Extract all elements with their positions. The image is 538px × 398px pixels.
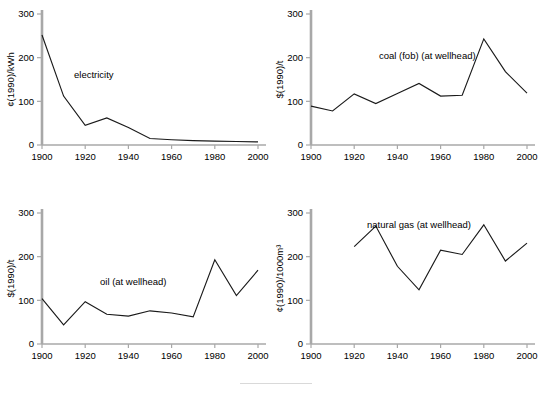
x-tick-label: 1900 bbox=[31, 350, 52, 361]
y-tick-label: 0 bbox=[298, 338, 303, 349]
x-tick-label: 1900 bbox=[300, 151, 321, 162]
chart-svg-electricity: 0100200300190019201940196019802000¢(1990… bbox=[0, 0, 269, 199]
chart-panel-oil: 0100200300190019201940196019802000$(1990… bbox=[0, 199, 269, 398]
x-tick-label: 1940 bbox=[387, 151, 408, 162]
x-tick-label: 1940 bbox=[118, 350, 139, 361]
y-tick-label: 300 bbox=[18, 8, 34, 19]
y-tick-label: 0 bbox=[29, 139, 34, 150]
chart-svg-natural-gas: 0100200300190019201940196019802000¢(1990… bbox=[269, 199, 538, 398]
chart-svg-oil: 0100200300190019201940196019802000$(1990… bbox=[0, 199, 269, 398]
y-tick-label: 200 bbox=[287, 52, 303, 63]
y-tick-label: 100 bbox=[18, 295, 34, 306]
x-tick-label: 2000 bbox=[247, 350, 268, 361]
x-tick-label: 1980 bbox=[204, 350, 225, 361]
chart-panel-coal: 0100200300190019201940196019802000$(1990… bbox=[269, 0, 538, 199]
y-tick-label: 0 bbox=[298, 139, 303, 150]
y-axis-title: $(1990)/t bbox=[274, 60, 285, 98]
y-tick-label: 100 bbox=[287, 295, 303, 306]
data-series-line bbox=[354, 225, 527, 290]
energy-price-chart-figure: 0100200300190019201940196019802000¢(1990… bbox=[0, 0, 538, 398]
x-tick-label: 2000 bbox=[516, 151, 537, 162]
x-tick-label: 1960 bbox=[430, 151, 451, 162]
y-axis-title: ¢(1990)/1000m³ bbox=[274, 245, 285, 313]
series-label: natural gas (at wellhead) bbox=[367, 219, 471, 230]
series-label: oil (at wellhead) bbox=[100, 276, 167, 287]
y-axis-title: $(1990)/t bbox=[5, 259, 16, 297]
y-tick-label: 100 bbox=[287, 96, 303, 107]
chart-svg-coal: 0100200300190019201940196019802000$(1990… bbox=[269, 0, 538, 199]
x-tick-label: 1960 bbox=[161, 350, 182, 361]
y-axis-title: ¢(1990)/kWh bbox=[5, 52, 16, 106]
y-tick-label: 200 bbox=[18, 251, 34, 262]
x-tick-label: 1940 bbox=[118, 151, 139, 162]
y-tick-label: 200 bbox=[287, 251, 303, 262]
x-tick-label: 1980 bbox=[473, 151, 494, 162]
y-tick-label: 300 bbox=[287, 207, 303, 218]
x-tick-label: 1900 bbox=[31, 151, 52, 162]
chart-panel-electricity: 0100200300190019201940196019802000¢(1990… bbox=[0, 0, 269, 199]
x-tick-label: 1940 bbox=[387, 350, 408, 361]
x-tick-label: 1920 bbox=[75, 350, 96, 361]
data-series-line bbox=[42, 260, 258, 325]
y-tick-label: 300 bbox=[18, 207, 34, 218]
series-label: electricity bbox=[74, 69, 114, 80]
x-tick-label: 1980 bbox=[473, 350, 494, 361]
caption-divider-rule bbox=[240, 383, 312, 384]
x-tick-label: 1960 bbox=[430, 350, 451, 361]
data-series-line bbox=[42, 35, 258, 142]
y-tick-label: 300 bbox=[287, 8, 303, 19]
x-tick-label: 1980 bbox=[204, 151, 225, 162]
chart-panel-natural-gas: 0100200300190019201940196019802000¢(1990… bbox=[269, 199, 538, 398]
x-tick-label: 1920 bbox=[75, 151, 96, 162]
x-tick-label: 1920 bbox=[344, 350, 365, 361]
series-label: coal (fob) (at wellhead) bbox=[379, 50, 476, 61]
x-tick-label: 2000 bbox=[516, 350, 537, 361]
x-tick-label: 1920 bbox=[344, 151, 365, 162]
y-tick-label: 0 bbox=[29, 338, 34, 349]
x-tick-label: 1900 bbox=[300, 350, 321, 361]
y-tick-label: 200 bbox=[18, 52, 34, 63]
x-tick-label: 2000 bbox=[247, 151, 268, 162]
y-tick-label: 100 bbox=[18, 96, 34, 107]
x-tick-label: 1960 bbox=[161, 151, 182, 162]
